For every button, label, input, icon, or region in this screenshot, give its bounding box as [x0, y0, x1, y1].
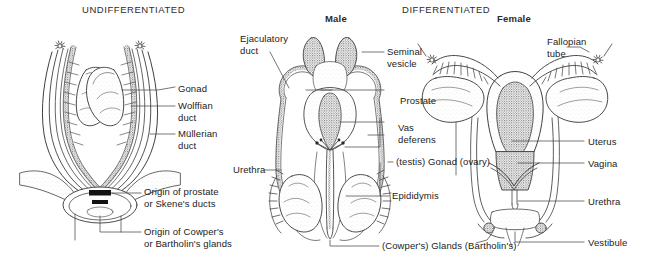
label-vas-deferens: Vas deferens: [398, 122, 436, 145]
label-ejaculatory-duct: Ejaculatory duct: [240, 33, 288, 56]
label-wolffian-duct: Wolffian duct: [178, 100, 213, 123]
label-urethra-female: Urethra: [588, 196, 620, 208]
label-prostate: Prostate: [400, 95, 436, 107]
label-gonad: Gonad: [178, 83, 207, 95]
label-mullerian-duct: Müllerian duct: [178, 128, 217, 151]
female-drawing: [418, 44, 612, 246]
label-vestibule: Vestibule: [588, 237, 627, 249]
male-drawing: [264, 37, 393, 246]
label-origin-of-prostate: Origin of prostate or Skene's ducts: [144, 186, 219, 209]
label-cowpers-glands-bartholins: (Cowper's) Glands (Bartholin's): [382, 240, 517, 252]
label-testis-gonad-ovary: (testis) Gonad (ovary): [396, 156, 490, 168]
label-vagina: Vagina: [588, 158, 617, 170]
label-epididymis: Epididymis: [392, 190, 439, 202]
label-urethra-male: Urethra: [233, 164, 265, 176]
anatomy-figure: UNDIFFERENTIATED Male DIFFERENTIATED Fem…: [0, 0, 658, 263]
header-undifferentiated: UNDIFFERENTIATED: [82, 4, 185, 15]
header-male: Male: [325, 13, 347, 24]
label-seminal-vesicle: Seminal vesicle: [387, 46, 422, 69]
undifferentiated-drawing: [20, 41, 180, 240]
label-uterus: Uterus: [588, 136, 617, 148]
label-fallopian-tube: Fallopian tube: [547, 36, 586, 59]
label-origin-of-cowpers-glands: Origin of Cowper's or Bartholin's glands: [144, 226, 232, 249]
header-differentiated: DIFFERENTIATED: [402, 4, 490, 15]
header-female: Female: [497, 13, 531, 24]
